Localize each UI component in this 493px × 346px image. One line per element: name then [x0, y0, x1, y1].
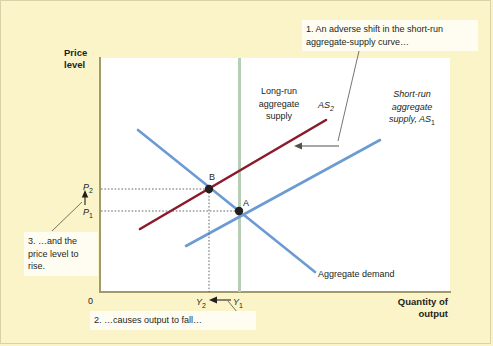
callout-3-leader — [52, 202, 82, 231]
y1-tick-subscript: 1 — [239, 302, 243, 309]
x-axis-label: Quantity of output — [380, 296, 448, 320]
p2-tick-subscript: 2 — [89, 187, 93, 194]
y2-tick-subscript: 2 — [202, 302, 206, 309]
figure-container: Price level Quantity of output 0 Long-ru… — [0, 0, 493, 346]
sras1-curve-label-subscript: 1 — [431, 119, 435, 126]
y2-tick-label: Y2 — [196, 296, 206, 312]
y1-tick-label: Y1 — [233, 296, 243, 312]
callout-1-leader — [338, 51, 359, 141]
lras-curve-label: Long-run aggregate supply — [248, 85, 310, 123]
p2-tick-label: P2 — [83, 181, 93, 197]
sras1-curve-label-text: Short-run aggregate supply, AS — [389, 89, 432, 124]
sras2-curve-label-text: AS — [318, 100, 330, 110]
aggregate-demand-curve — [138, 130, 315, 272]
p1-tick-label: P1 — [83, 206, 93, 222]
p1-tick-subscript: 1 — [89, 212, 93, 219]
point-a-label: A — [243, 197, 249, 209]
shift-arrow-head — [294, 143, 302, 150]
sras2-curve — [140, 120, 326, 229]
sras1-curve-label: Short-run aggregate supply, AS1 — [371, 88, 453, 129]
sras2-curve-label: AS2 — [318, 99, 334, 115]
point-b-marker — [205, 185, 213, 193]
callout-1-box: 1. An adverse shift in the short-run agg… — [302, 20, 478, 51]
sras2-curve-label-subscript: 2 — [330, 105, 334, 112]
output-fall-arrow-head — [209, 297, 217, 304]
origin-label: 0 — [88, 295, 93, 307]
aggregate-demand-curve-label: Aggregate demand — [318, 268, 395, 280]
point-b-label: B — [209, 171, 215, 183]
callout-2-box: 2. …causes output to fall… — [90, 311, 256, 330]
y-axis-label: Price level — [64, 47, 87, 71]
point-a-marker — [235, 207, 243, 215]
callout-3-box: 3. …and the price level to rise. — [24, 232, 98, 276]
